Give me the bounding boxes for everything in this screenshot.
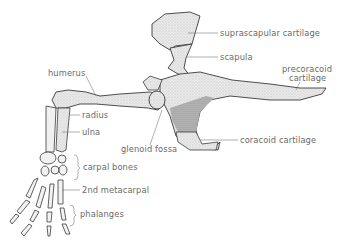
label-carpal-bones: carpal bones <box>83 163 138 171</box>
digit-bones <box>10 178 70 236</box>
epicoracoid-piece <box>143 76 162 90</box>
humerus-shape <box>52 90 164 110</box>
label-glenoid-fossa: glenoid fossa <box>121 145 177 153</box>
scapula-shape <box>168 44 192 76</box>
coracoid-cartilage-shape <box>176 132 218 150</box>
ulna-shape <box>46 106 56 152</box>
suprascapular-cartilage-shape <box>152 12 200 50</box>
label-precoracoid-line2: cartilage <box>289 74 326 82</box>
label-radius: radius <box>82 111 108 119</box>
label-2nd-metacarpal: 2nd metacarpal <box>82 186 149 194</box>
label-coracoid-cartilage: coracoid cartilage <box>240 136 316 144</box>
carpal-bones-shapes <box>40 152 67 176</box>
label-humerus: humerus <box>48 69 85 77</box>
label-phalanges: phalanges <box>80 210 124 218</box>
label-suprascapular-cartilage: suprascapular cartilage <box>220 29 320 37</box>
label-scapula: scapula <box>220 53 253 61</box>
radius-shape <box>56 108 70 152</box>
label-ulna: ulna <box>82 128 100 136</box>
humeral-head <box>149 91 165 109</box>
